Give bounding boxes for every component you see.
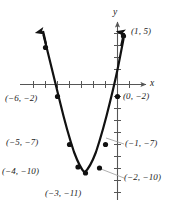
- parabola-curve: [43, 31, 124, 173]
- data-point: [43, 45, 48, 50]
- data-point: [121, 33, 126, 38]
- data-point: [83, 170, 88, 175]
- point-label-minus5-minus7: (−5, −7): [6, 138, 38, 147]
- data-point: [115, 94, 120, 99]
- parabola-graph-figure: x y (−6, −2) (−5, −7) (−4, −10) (−3, −11…: [0, 0, 175, 206]
- x-axis: [20, 81, 146, 88]
- y-axis-label: y: [113, 8, 117, 18]
- point-label-minus2-minus10: (−2, −10): [124, 173, 161, 182]
- point-label-minus4-minus10: (−4, −10): [2, 167, 39, 176]
- data-point: [55, 94, 60, 99]
- data-point: [103, 142, 108, 147]
- point-label-minus3-minus11: (−3, −11): [45, 189, 81, 198]
- data-point: [67, 142, 72, 147]
- data-points: [43, 33, 126, 175]
- point-label-1-5: (1, 5): [131, 27, 151, 36]
- point-label-minus6-minus2: (−6, −2): [5, 94, 37, 103]
- data-point: [97, 165, 102, 170]
- x-axis-label: x: [150, 79, 154, 89]
- y-axis: [114, 22, 121, 200]
- data-point: [75, 164, 80, 169]
- point-label-0-minus2: (0, −2): [123, 92, 149, 101]
- point-label-minus1-minus7: (−1, −7): [125, 139, 157, 148]
